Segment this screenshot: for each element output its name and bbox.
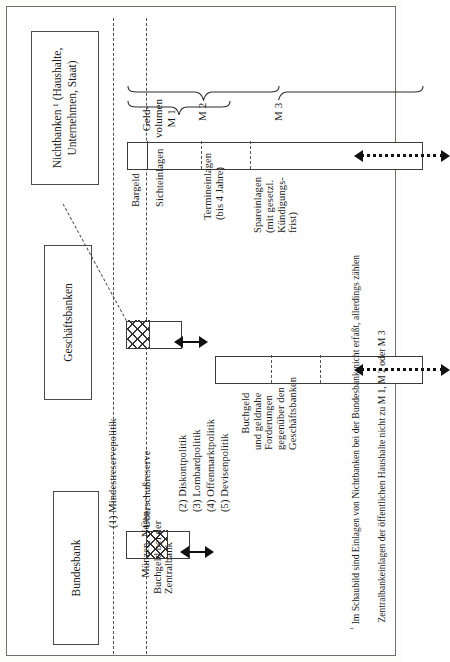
footnote-line-2: Zentralbankeinlagen der öffentlichen Hau…: [376, 331, 387, 623]
entity-box-nichtbanken: Nichtbanken ¹ (Haushalte, Unternehmen, S…: [31, 31, 99, 185]
brace-m3: [127, 85, 424, 101]
policy-label-4: (4) Offenmarktpolitik: [205, 419, 217, 512]
label-m3: M 3: [272, 103, 284, 121]
label-sichteinlagen: Sichteinlagen: [154, 149, 166, 207]
footnote-marker: ¹: [348, 627, 357, 629]
bar-nichtbanken-div-bargeld: [147, 141, 148, 169]
policy-label-2: (2) Diskontpolitik: [177, 435, 189, 512]
label-m2: M 2: [196, 103, 208, 121]
label-m1: Geld- volumen M 1: [140, 99, 177, 138]
entity-box-geschaeftsbanken-label: Geschäftsbanken: [62, 283, 74, 362]
caption-bundesbank: Münzen, Noten, Buchgeld bei der Zentralb…: [128, 508, 187, 594]
footnote: ¹Im Schaubild sind Einlagen von Nichtban…: [335, 255, 402, 644]
label-bargeld: Bargeld: [130, 173, 142, 207]
label-spareinlagen: Spareinlagen (mit gesetzl. Kündigungs- f…: [252, 177, 299, 233]
bar-geschaeftsbanken-div-2: [320, 355, 321, 383]
policy-label-ueberschussreserve: Überschußreserve: [141, 451, 153, 528]
entity-box-bundesbank-label: Bundesbank: [70, 540, 82, 597]
bar-nichtbanken-div-termin: [250, 141, 251, 169]
policy-label-3: (3) Lombardpolitik: [191, 429, 203, 512]
label-termineinlagen: Termineinlagen (bis 4 Jahre): [202, 153, 226, 220]
entity-box-geschaeftsbanken: Geschäftsbanken: [44, 245, 92, 400]
entity-box-nichtbanken-label: Nichtbanken ¹ (Haushalte, Unternehmen, S…: [50, 48, 80, 169]
footnote-line-1: Im Schaubild sind Einlagen von Nichtbank…: [350, 255, 361, 625]
guide-dash-left: [113, 18, 114, 654]
caption-geschaeftsbanken: Buchgeld und geldnahe Forderungen gegenü…: [228, 377, 310, 450]
policy-label-1: (1) Mindestreservepolitik: [107, 418, 119, 528]
entity-box-bundesbank: Bundesbank: [53, 491, 99, 645]
caption-geschaeftsbanken-text: Buchgeld und geldnahe Forderungen gegenü…: [240, 377, 298, 450]
bar-zentralbankgeld-seg-hatched: [127, 320, 150, 348]
